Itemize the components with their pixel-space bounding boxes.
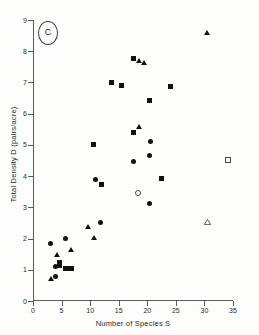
data-point-filled-square bbox=[69, 266, 74, 271]
data-point-filled-triangle bbox=[48, 276, 54, 281]
x-axis-title: Number of Species S bbox=[33, 319, 233, 328]
x-tick-label: 35 bbox=[223, 307, 243, 314]
x-tick-label: 5 bbox=[52, 307, 72, 314]
data-point-filled-circle bbox=[53, 274, 58, 279]
data-point-filled-square bbox=[119, 83, 124, 88]
y-tick-label: 9 bbox=[13, 17, 27, 24]
data-point-filled-circle bbox=[98, 220, 103, 225]
plot-area bbox=[33, 20, 233, 301]
data-point-filled-triangle bbox=[91, 235, 97, 240]
scatter-plot-figure: 0123456789 05101520253035 C Number of Sp… bbox=[0, 0, 259, 335]
data-point-filled-triangle bbox=[68, 247, 74, 252]
x-tick-label: 30 bbox=[194, 307, 214, 314]
data-point-filled-triangle bbox=[136, 124, 142, 129]
x-tick-mark bbox=[119, 301, 120, 306]
data-point-filled-circle bbox=[48, 241, 53, 246]
x-tick-label: 15 bbox=[109, 307, 129, 314]
data-point-open-square bbox=[225, 157, 231, 163]
x-tick-mark bbox=[233, 301, 234, 306]
data-point-filled-square bbox=[91, 142, 96, 147]
x-tick-mark bbox=[33, 301, 34, 306]
x-tick-mark bbox=[147, 301, 148, 306]
data-point-filled-square bbox=[109, 80, 114, 85]
data-point-open-triangle bbox=[204, 219, 210, 224]
data-point-filled-triangle bbox=[54, 252, 60, 257]
x-tick-label: 0 bbox=[23, 307, 43, 314]
data-point-filled-square bbox=[168, 84, 173, 89]
x-tick-label: 25 bbox=[166, 307, 186, 314]
data-point-filled-circle bbox=[147, 153, 152, 158]
data-point-filled-triangle bbox=[204, 30, 210, 35]
x-tick-mark bbox=[204, 301, 205, 306]
x-tick-mark bbox=[90, 301, 91, 306]
data-point-filled-circle bbox=[63, 236, 68, 241]
data-point-filled-circle bbox=[148, 139, 153, 144]
y-tick-label: 1 bbox=[13, 266, 27, 273]
data-point-filled-square bbox=[159, 176, 164, 181]
data-point-filled-triangle bbox=[85, 224, 91, 229]
data-point-open-circle bbox=[135, 190, 141, 196]
data-point-filled-square bbox=[147, 98, 152, 103]
data-point-filled-square bbox=[131, 130, 136, 135]
data-point-filled-circle bbox=[131, 159, 136, 164]
data-point-filled-triangle bbox=[141, 60, 147, 65]
panel-label: C bbox=[38, 21, 58, 45]
data-point-filled-circle bbox=[147, 201, 152, 206]
y-tick-label: 0 bbox=[13, 298, 27, 305]
y-tick-label: 8 bbox=[13, 48, 27, 55]
x-tick-label: 20 bbox=[137, 307, 157, 314]
x-tick-mark bbox=[176, 301, 177, 306]
x-tick-label: 10 bbox=[80, 307, 100, 314]
y-tick-label: 2 bbox=[13, 235, 27, 242]
data-point-filled-square bbox=[99, 182, 104, 187]
data-point-filled-circle bbox=[93, 177, 98, 182]
y-axis-title: Total Density D (pairs/acre) bbox=[9, 80, 18, 230]
x-tick-mark bbox=[62, 301, 63, 306]
data-point-filled-square bbox=[57, 260, 62, 265]
